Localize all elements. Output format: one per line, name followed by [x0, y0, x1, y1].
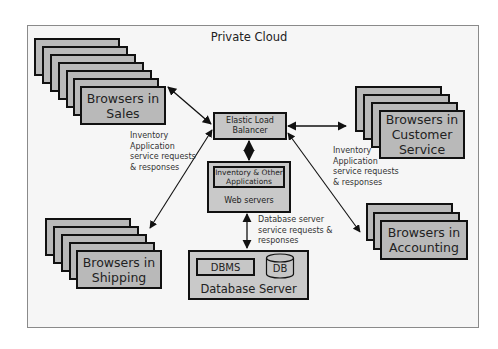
annotation-right: Inventory Application service requests &…	[333, 146, 399, 188]
annotation-left: Inventory Application service requests &…	[130, 131, 196, 173]
database-server-label: Database Server	[190, 282, 307, 296]
web-servers-label: Web servers	[209, 196, 289, 205]
dbms-box: DBMS	[196, 258, 255, 276]
browsers-in-accounting-box: Browsers in Accounting	[380, 220, 468, 260]
inventory-applications-box: Inventory & Other Applications	[213, 166, 285, 188]
elastic-load-balancer-box: Elastic Load Balancer	[213, 112, 287, 140]
database-server-box: DBMS DB Database Server	[188, 250, 309, 300]
browsers-in-shipping-box: Browsers in Shipping	[76, 250, 162, 289]
annotation-db: Database server service requests & respo…	[258, 215, 333, 247]
db-cylinder-icon: DB	[265, 253, 295, 279]
browsers-in-sales-box: Browsers in Sales	[80, 86, 166, 125]
web-servers-box: Inventory & Other Applications Web serve…	[207, 161, 291, 213]
